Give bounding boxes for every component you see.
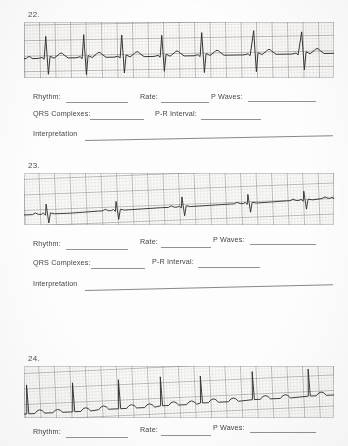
worksheet-page: 22. bbox=[0, 0, 348, 446]
strip-number-24: 24. bbox=[28, 354, 40, 363]
label-pr-interval: P-R Interval: bbox=[155, 109, 197, 118]
label-rate: Rate: bbox=[140, 425, 158, 434]
label-rhythm: Rhythm: bbox=[33, 92, 61, 101]
input-pr-23[interactable] bbox=[198, 267, 260, 268]
ecg-strip-22 bbox=[24, 22, 334, 78]
label-rhythm: Rhythm: bbox=[33, 427, 61, 436]
ecg-strip-container-24: 24. bbox=[24, 366, 334, 418]
ecg-strip-container-22: 22. bbox=[24, 22, 334, 78]
input-rhythm-24[interactable] bbox=[66, 437, 128, 438]
answer-row-interpretation-23: Interpretation bbox=[0, 279, 348, 295]
input-p-waves-24[interactable] bbox=[250, 432, 316, 433]
input-rhythm-23[interactable] bbox=[66, 249, 128, 250]
answer-row-qrs-23: QRS Complexes: P-R Interval: bbox=[0, 258, 348, 272]
answer-row-rhythm-24: Rhythm: Rate: P Waves: bbox=[0, 427, 348, 441]
label-p-waves: P Waves: bbox=[213, 423, 245, 432]
label-qrs-complexes: QRS Complexes: bbox=[33, 258, 91, 267]
ecg-strip-container-23: 23. bbox=[24, 173, 334, 225]
input-qrs-22[interactable] bbox=[90, 119, 144, 120]
input-pr-22[interactable] bbox=[201, 119, 261, 120]
label-p-waves: P Waves: bbox=[213, 235, 245, 244]
answer-row-interpretation-22: Interpretation bbox=[0, 129, 348, 145]
label-pr-interval: P-R Interval: bbox=[152, 257, 194, 266]
label-rate: Rate: bbox=[140, 237, 158, 246]
answer-row-rhythm-23: Rhythm: Rate: P Waves: bbox=[0, 239, 348, 253]
input-rate-23[interactable] bbox=[161, 247, 211, 248]
input-interpretation-22[interactable] bbox=[85, 135, 333, 141]
input-rhythm-22[interactable] bbox=[66, 102, 128, 103]
strip-number-22: 22. bbox=[28, 10, 40, 19]
input-p-waves-23[interactable] bbox=[250, 244, 316, 245]
answer-row-qrs-22: QRS Complexes: P-R Interval: bbox=[0, 109, 348, 123]
label-p-waves: P Waves: bbox=[211, 92, 243, 101]
label-rhythm: Rhythm: bbox=[33, 239, 61, 248]
ecg-strip-23 bbox=[24, 173, 334, 225]
input-p-waves-22[interactable] bbox=[248, 101, 316, 102]
label-rate: Rate: bbox=[140, 92, 158, 101]
input-rate-22[interactable] bbox=[161, 102, 209, 103]
input-rate-24[interactable] bbox=[161, 435, 211, 436]
label-interpretation: Interpretation bbox=[33, 279, 77, 288]
label-interpretation: Interpretation bbox=[33, 129, 77, 138]
input-qrs-23[interactable] bbox=[91, 268, 145, 269]
answer-row-rhythm-22: Rhythm: Rate: P Waves: bbox=[0, 92, 348, 106]
strip-number-23: 23. bbox=[28, 161, 40, 170]
label-qrs-complexes: QRS Complexes: bbox=[33, 109, 91, 118]
input-interpretation-23[interactable] bbox=[85, 284, 333, 291]
ecg-strip-24 bbox=[24, 366, 334, 418]
